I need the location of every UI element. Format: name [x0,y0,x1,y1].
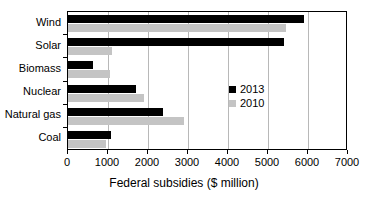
x-axis-tick-1000 [107,150,108,154]
y-axis-label-1: Solar [0,40,61,51]
legend-item-2013: 2013 [229,82,264,96]
x-axis-tick-7000 [347,150,348,154]
x-axis-tick-3000 [187,150,188,154]
bar-chart: Wind Solar Biomass Nuclear Natural gas C… [0,0,368,205]
bar-natural-gas-2010 [68,117,184,125]
y-axis-label-5: Coal [0,132,61,143]
x-axis-tick-6000 [307,150,308,154]
legend: 2013 2010 [229,82,264,110]
bar-wind-2010 [68,24,286,32]
y-axis-label-4: Natural gas [0,109,61,120]
x-axis-tick-4000 [227,150,228,154]
x-axis-tick-0 [67,150,68,154]
legend-swatch-icon-2013 [229,86,236,93]
y-axis-label-3: Nuclear [0,86,61,97]
bar-wind-2013 [68,15,304,23]
x-axis-tick-2000 [147,150,148,154]
bar-nuclear-2010 [68,94,144,102]
x-axis-tick-label-2000: 2000 [135,156,159,168]
legend-label-2010: 2010 [240,96,264,110]
bar-coal-2010 [68,140,106,148]
bar-solar-2010 [68,47,112,55]
x-axis-tick-5000 [267,150,268,154]
bar-biomass-2010 [68,70,110,78]
bar-rows [68,12,346,149]
x-axis-title: Federal subsidies ($ million) [0,176,368,190]
x-axis-tick-label-1000: 1000 [95,156,119,168]
x-axis-tick-label-6000: 6000 [295,156,319,168]
y-axis-label-0: Wind [0,17,61,28]
bar-solar-2013 [68,38,284,46]
x-axis-tick-label-4000: 4000 [215,156,239,168]
x-axis-tick-label-7000: 7000 [335,156,359,168]
legend-label-2013: 2013 [240,82,264,96]
x-axis-tick-label-0: 0 [64,156,70,168]
legend-item-2010: 2010 [229,96,264,110]
x-axis-tick-label-5000: 5000 [255,156,279,168]
legend-swatch-icon-2010 [229,100,236,107]
bar-biomass-2013 [68,61,93,69]
x-axis-tick-label-3000: 3000 [175,156,199,168]
bar-coal-2013 [68,131,111,139]
y-axis-label-2: Biomass [0,63,61,74]
bar-nuclear-2013 [68,85,136,93]
bar-natural-gas-2013 [68,108,163,116]
plot-area [67,11,347,150]
